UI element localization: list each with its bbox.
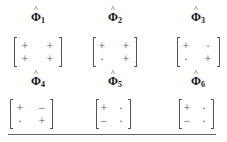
right-bracket [128,99,131,129]
label-subscript: 4 [41,80,45,89]
phi-hat-symbol: Φ [108,74,118,88]
label-subscript: 1 [41,16,45,25]
phi-hat-symbol: Φ [31,74,41,88]
matrix-entry: · [96,53,108,65]
phi-hat-symbol: Φ [191,74,201,88]
matrix-entry: + [96,40,108,52]
right-bracket [211,99,214,129]
sign-matrix-phi4: + − · + [10,99,53,129]
matrix-entry: + [44,40,56,52]
right-bracket [59,37,62,67]
matrix-entry: + [120,40,132,52]
matrix-entry: + [180,40,192,52]
sign-matrix-phi3: + · · + [177,37,220,67]
phi-hat-symbol: Φ [108,10,118,24]
matrix-entry: − [36,102,48,114]
left-bracket [10,99,13,129]
matrix-entry: + [120,53,132,65]
sign-matrix-phi5: + · − · [96,99,131,129]
matrix-entry: · [198,115,210,127]
matrix-label-phi2: Φ2 [80,10,150,28]
matrix-entry: · [202,40,214,52]
right-bracket [217,37,220,67]
label-subscript: 2 [118,16,122,25]
matrix-entry: + [181,102,193,114]
sign-matrix-phi2: + + · + [93,37,137,67]
matrix-entry: + [14,102,26,114]
right-bracket [50,99,53,129]
label-subscript: 3 [201,16,205,25]
left-bracket [14,37,17,67]
matrix-label-phi6: Φ6 [163,74,227,92]
matrix-entry: + [36,115,48,127]
matrix-label-phi5: Φ5 [80,74,150,92]
right-bracket [134,37,137,67]
matrix-label-phi1: Φ1 [3,10,73,28]
matrix-entry: − [98,115,110,127]
matrix-entry: + [202,53,214,65]
matrix-entry: · [115,115,127,127]
table-bottom-rule [8,134,216,135]
matrix-entry: + [44,53,56,65]
matrix-label-phi3: Φ3 [163,10,227,28]
matrix-entry: − [181,115,193,127]
phi-hat-symbol: Φ [191,10,201,24]
matrix-entry: · [180,53,192,65]
label-subscript: 5 [118,80,122,89]
matrix-entry: + [98,102,110,114]
matrix-label-phi4: Φ4 [3,74,73,92]
sign-matrix-phi6: + · − · [179,99,214,129]
sign-matrix-phi1: + + + + [14,37,62,67]
matrix-entry: · [198,102,210,114]
phi-hat-symbol: Φ [31,10,41,24]
label-subscript: 6 [201,80,205,89]
matrix-entry: + [19,40,31,52]
matrix-entry: · [115,102,127,114]
matrix-entry: · [14,115,26,127]
matrix-entry: + [19,53,31,65]
